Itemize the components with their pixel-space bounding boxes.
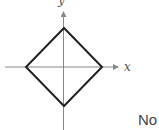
answer-text: No <box>138 111 157 128</box>
x-axis-label: x <box>124 60 131 74</box>
y-axis-label: y <box>57 0 65 7</box>
graph: x y <box>0 0 159 130</box>
